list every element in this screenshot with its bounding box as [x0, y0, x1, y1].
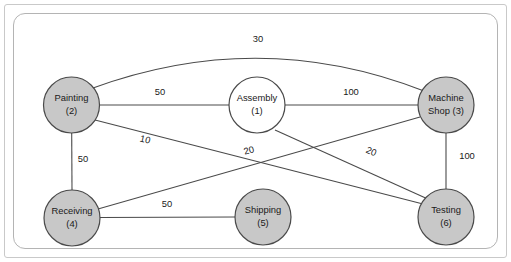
- network-graph: Painting(2)Assembly(1)MachineShop (3)Rec…: [0, 0, 511, 262]
- node-label-line1-painting: Painting: [55, 92, 89, 103]
- node-assembly[interactable]: Assembly(1): [229, 77, 285, 133]
- node-label-line1-testing: Testing: [431, 204, 461, 215]
- node-label-line2-painting: (2): [66, 105, 77, 116]
- diagram-figure: Painting(2)Assembly(1)MachineShop (3)Rec…: [0, 0, 511, 262]
- edge-weight-label-painting-assembly: 50: [155, 86, 165, 97]
- node-machine-shop[interactable]: MachineShop (3): [418, 77, 474, 133]
- edge-weight-label-painting-testing: 10: [139, 132, 152, 145]
- node-label-line2-shipping: (5): [257, 217, 268, 228]
- node-label-line1-machine-shop: Machine: [428, 92, 463, 103]
- node-label-line1-assembly: Assembly: [237, 92, 278, 103]
- edge-receiving-shipping: [100, 217, 235, 218]
- edge-assembly-shipping: [275, 130, 430, 200]
- node-testing[interactable]: Testing(6): [418, 189, 474, 245]
- edge-weight-label-painting-machineshop: 30: [253, 33, 263, 44]
- edge-weight-label-receiving-machineshop: 20: [242, 143, 255, 156]
- node-label-line2-machine-shop: Shop (3): [428, 105, 464, 116]
- edge-weight-label-machineshop-testing: 100: [459, 150, 475, 161]
- node-label-line2-testing: (6): [440, 217, 451, 228]
- edge-weight-label-receiving-shipping: 50: [162, 198, 172, 209]
- edge-weight-label-painting-receiving: 50: [78, 153, 88, 164]
- node-receiving[interactable]: Receiving(4): [44, 190, 100, 246]
- edge-weight-label-assembly-machineshop: 100: [343, 86, 359, 97]
- node-label-line2-assembly: (1): [251, 105, 262, 116]
- edge-weight-label-assembly-shipping: 20: [364, 144, 378, 158]
- node-label-line1-receiving: Receiving: [51, 205, 92, 216]
- node-painting[interactable]: Painting(2): [44, 77, 100, 133]
- node-shipping[interactable]: Shipping(5): [235, 189, 291, 245]
- node-label-line1-shipping: Shipping: [245, 204, 282, 215]
- node-label-line2-receiving: (4): [66, 218, 77, 229]
